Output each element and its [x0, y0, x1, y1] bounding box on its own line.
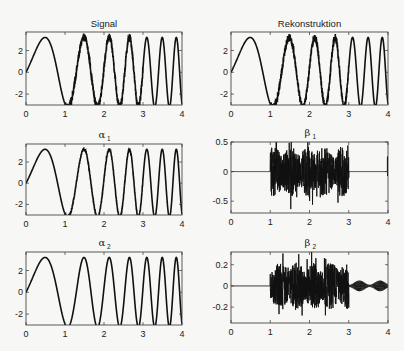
x-tick-label: 2 [307, 109, 312, 119]
subplot-beta2: 01234-0.200.2β2 [212, 237, 390, 337]
subplot-title-subscript: 1 [107, 135, 111, 142]
x-tick-label: 0 [23, 219, 28, 229]
x-tick-label: 0 [228, 109, 233, 119]
y-tick-label: 0 [18, 178, 23, 188]
y-tick-label: -2 [15, 309, 23, 319]
subplot-alpha1: 01234-202α1 [15, 129, 185, 229]
subplot-title: β [305, 237, 311, 248]
x-tick-label: 4 [385, 109, 390, 119]
data-line [26, 257, 182, 327]
y-tick-label: -2 [15, 199, 23, 209]
x-tick-label: 3 [346, 109, 351, 119]
y-tick-label: 0 [223, 67, 228, 77]
x-tick-label: 4 [385, 327, 390, 337]
subplot-title: β [305, 127, 311, 138]
x-tick-label: 1 [62, 219, 67, 229]
x-tick-label: 0 [228, 217, 233, 227]
y-tick-label: 0 [18, 67, 23, 77]
data-line [231, 139, 388, 209]
subplot-title: Rekonstruktion [278, 18, 341, 29]
y-tick-label: 0 [18, 287, 23, 297]
subplot-title-subscript: 2 [313, 243, 317, 250]
x-tick-label: 2 [101, 329, 106, 339]
x-tick-label: 3 [346, 327, 351, 337]
subplot-beta1: 01234-0.500.5β1 [212, 127, 390, 227]
y-tick-label: -0.2 [212, 302, 228, 312]
subplot-alpha2: 01234-202α2 [15, 237, 185, 339]
x-tick-label: 2 [101, 219, 106, 229]
y-tick-label: 0 [223, 167, 228, 177]
x-tick-label: 1 [268, 217, 273, 227]
data-line [231, 251, 388, 315]
x-tick-label: 1 [62, 329, 67, 339]
x-tick-label: 4 [179, 219, 184, 229]
x-tick-label: 4 [179, 329, 184, 339]
subplot-rekonstruktion: 01234-202Rekonstruktion [220, 18, 391, 119]
subplot-title-subscript: 1 [313, 133, 317, 140]
x-tick-label: 2 [307, 327, 312, 337]
y-tick-label: 2 [18, 157, 23, 167]
x-tick-label: 0 [23, 109, 28, 119]
y-tick-label: 0 [223, 281, 228, 291]
data-line [231, 34, 388, 111]
x-tick-label: 1 [62, 109, 67, 119]
data-line [26, 34, 182, 111]
x-tick-label: 4 [179, 109, 184, 119]
y-tick-label: 0.5 [215, 137, 228, 147]
x-tick-label: 1 [268, 327, 273, 337]
y-tick-label: -2 [15, 89, 23, 99]
x-tick-label: 2 [101, 109, 106, 119]
x-tick-label: 3 [140, 219, 145, 229]
subplot-title: α [99, 237, 106, 248]
x-tick-label: 3 [140, 329, 145, 339]
subplot-signal: 01234-202Signal [15, 18, 185, 119]
y-tick-label: 2 [18, 266, 23, 276]
figure: 01234-202Signal 01234-202Rekonstruktion … [0, 0, 404, 351]
y-tick-label: 0.2 [215, 260, 228, 270]
x-tick-label: 0 [23, 329, 28, 339]
data-line [26, 148, 182, 218]
y-tick-label: 2 [18, 46, 23, 56]
x-tick-label: 3 [140, 109, 145, 119]
y-tick-label: -2 [220, 89, 228, 99]
x-tick-label: 1 [268, 109, 273, 119]
x-tick-label: 0 [228, 327, 233, 337]
x-tick-label: 2 [307, 217, 312, 227]
y-tick-label: 2 [223, 46, 228, 56]
subplot-title: Signal [91, 18, 117, 29]
x-tick-label: 3 [346, 217, 351, 227]
x-tick-label: 4 [385, 217, 390, 227]
subplot-title-subscript: 2 [107, 243, 111, 250]
subplot-title: α [99, 129, 106, 140]
y-tick-label: -0.5 [212, 196, 228, 206]
